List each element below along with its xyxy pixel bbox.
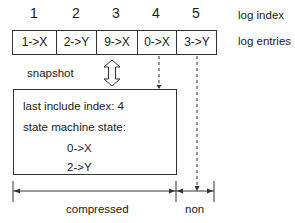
arrowhead-entry-5: [195, 186, 200, 191]
compressed-label: compressed: [66, 203, 129, 215]
state-entry-2: 2->Y: [67, 161, 92, 173]
state-entry-1: 0->X: [67, 142, 92, 154]
non-label: non: [185, 203, 204, 215]
snapshot-box: last include index: 4 state machine stat…: [13, 89, 177, 175]
double-arrow-icon: [104, 60, 120, 86]
state-machine-state-label: state machine state:: [23, 121, 126, 133]
last-include-index: last include index: 4: [23, 100, 124, 112]
